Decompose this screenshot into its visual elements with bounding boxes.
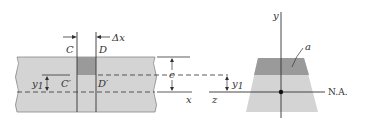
label-d-prime: D′ xyxy=(97,78,109,89)
arrowhead-icon xyxy=(225,76,229,80)
arrowhead-icon xyxy=(170,87,174,91)
cross-section-view: y z a y1 N.A. xyxy=(209,10,348,118)
label-z-axis: z xyxy=(211,94,218,105)
centroid-dot xyxy=(279,90,283,94)
label-y1-section: y1 xyxy=(231,78,243,91)
arrowhead-icon xyxy=(72,35,77,39)
label-neutral-axis: N.A. xyxy=(328,87,348,97)
arrowhead-icon xyxy=(170,58,174,62)
label-delta-x: Δx xyxy=(111,32,125,43)
shear-flow-diagram: C D Δx y1 C′ D′ c x y z a xyxy=(0,0,365,125)
label-d: D xyxy=(98,44,107,55)
beam-side-view: C D Δx y1 C′ D′ c x xyxy=(16,32,229,112)
section-shaded-area-a xyxy=(254,58,309,75)
arrowhead-icon xyxy=(96,35,101,39)
label-x-axis: x xyxy=(186,94,192,105)
beam-element-area xyxy=(77,57,96,75)
label-area-a: a xyxy=(305,41,311,52)
arrowhead-icon xyxy=(225,87,229,91)
label-y-axis: y xyxy=(272,10,279,21)
label-c: C xyxy=(66,44,74,55)
label-c-dimension: c xyxy=(169,69,175,80)
label-c-prime: C′ xyxy=(61,78,72,89)
